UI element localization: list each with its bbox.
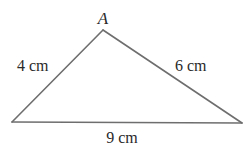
- vertex-label-a: A: [97, 9, 109, 28]
- side-base: [12, 122, 242, 123]
- side-label-left: 4 cm: [17, 57, 49, 74]
- side-label-right: 6 cm: [175, 57, 207, 74]
- triangle-diagram: A 4 cm 6 cm 9 cm: [0, 0, 250, 152]
- side-label-base: 9 cm: [106, 129, 138, 146]
- side-left: [12, 30, 103, 122]
- side-right: [103, 30, 242, 123]
